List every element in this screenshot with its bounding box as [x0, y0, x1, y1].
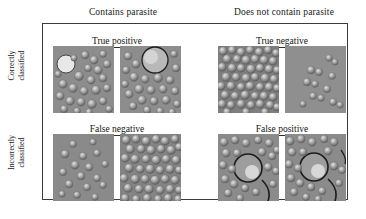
row-header-incorrectly-classified-line2: classified — [16, 123, 26, 183]
column-header-does-not-contain-parasite: Does not contain parasite — [208, 7, 360, 17]
row-header-correctly-classified-line1: Correctly — [7, 38, 17, 94]
row-header-correctly-classified-line2: classified — [16, 38, 26, 94]
confusion-matrix-figure: Contains parasite Does not contain paras… — [0, 0, 366, 219]
column-header-contains-parasite: Contains parasite — [58, 7, 188, 17]
row-header-incorrectly-classified: Incorrectly classified — [7, 123, 26, 183]
quadrant-true-positive: True positive — [53, 30, 181, 113]
true-positive-sample-2 — [120, 46, 181, 113]
row-header-correctly-classified: Correctly classified — [7, 38, 26, 94]
false-negative-sample-2 — [120, 134, 181, 201]
false-positive-sample-2 — [285, 134, 346, 201]
true-negative-sample-1 — [218, 46, 279, 113]
false-negative-sample-1 — [53, 134, 114, 201]
row-header-incorrectly-classified-line1: Incorrectly — [7, 123, 17, 183]
true-negative-sample-2 — [285, 46, 346, 113]
false-positive-sample-1 — [218, 134, 279, 201]
true-positive-sample-1 — [53, 46, 114, 113]
quadrant-false-positive: False positive — [218, 118, 346, 201]
quadrant-true-negative: True negative — [218, 30, 346, 113]
quadrant-false-negative: False negative — [53, 118, 181, 201]
